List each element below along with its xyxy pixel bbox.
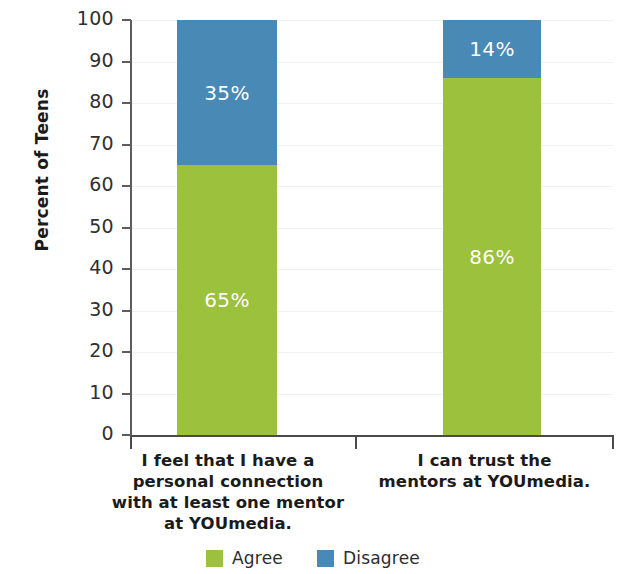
y-axis-tick-mark [122, 227, 131, 229]
stacked-bar-chart: Percent of Teens 65%35%86%14% 0102030405… [0, 0, 626, 574]
y-axis-tick-label: 100 [66, 7, 114, 29]
y-axis-tick-label: 20 [66, 339, 114, 361]
legend-swatch-icon [206, 550, 223, 567]
bar-group[interactable]: 65%35% [177, 20, 277, 435]
legend-item-agree[interactable]: Agree [206, 548, 283, 568]
bar-segment-agree[interactable]: 65% [177, 165, 277, 435]
bar-segment-disagree[interactable]: 14% [443, 20, 541, 78]
bar-value-label: 65% [204, 288, 250, 312]
category-label-line: personal connection [88, 471, 368, 492]
y-axis-tick-mark [122, 102, 131, 104]
category-label-line: at YOUmedia. [88, 513, 368, 534]
y-axis-tick-label: 50 [66, 215, 114, 237]
x-axis-category-label: I feel that I have apersonal connectionw… [88, 450, 368, 534]
bar-value-label: 86% [469, 245, 515, 269]
legend-item-disagree[interactable]: Disagree [317, 548, 420, 568]
y-axis-tick-mark [122, 185, 131, 187]
y-axis-tick-mark [122, 61, 131, 63]
legend-label: Agree [232, 548, 283, 568]
legend-swatch-icon [317, 550, 334, 567]
x-axis-category-label: I can trust thementors at YOUmedia. [356, 450, 613, 492]
bars-layer: 65%35%86%14% [131, 20, 613, 435]
y-axis-tick-label: 0 [66, 422, 114, 444]
y-axis-title: Percent of Teens [32, 70, 52, 270]
bar-value-label: 14% [469, 37, 515, 61]
y-axis-tick-label: 60 [66, 173, 114, 195]
y-axis-tick-mark [122, 351, 131, 353]
y-axis-tick-mark [122, 268, 131, 270]
y-axis-tick-mark [122, 19, 131, 21]
category-label-line: mentors at YOUmedia. [356, 471, 613, 492]
y-axis-tick-mark [122, 393, 131, 395]
y-axis-tick-mark [122, 144, 131, 146]
legend-label: Disagree [343, 548, 420, 568]
y-axis-tick-label: 70 [66, 132, 114, 154]
y-axis-tick-label: 80 [66, 90, 114, 112]
x-axis-tick-right [612, 436, 614, 449]
bar-value-label: 35% [204, 81, 250, 105]
y-axis-tick-label: 40 [66, 256, 114, 278]
x-axis-tick-middle [355, 436, 357, 449]
bar-segment-disagree[interactable]: 35% [177, 20, 277, 165]
y-axis-tick-label: 30 [66, 298, 114, 320]
bar-group[interactable]: 86%14% [443, 20, 541, 435]
x-axis-tick-left [130, 436, 132, 449]
category-label-line: I can trust the [356, 450, 613, 471]
chart-legend: AgreeDisagree [0, 548, 626, 568]
y-axis-tick-label: 90 [66, 49, 114, 71]
y-axis-tick-mark [122, 310, 131, 312]
bar-segment-agree[interactable]: 86% [443, 78, 541, 435]
y-axis-tick-label: 10 [66, 381, 114, 403]
category-label-line: I feel that I have a [88, 450, 368, 471]
category-label-line: with at least one mentor [88, 492, 368, 513]
x-axis-line [130, 435, 614, 437]
